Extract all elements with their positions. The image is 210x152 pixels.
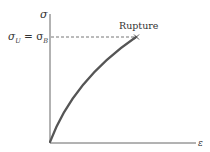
x-axis-label: ε xyxy=(198,138,203,148)
ultimate-stress-label: σU = σB xyxy=(8,30,48,45)
y-axis-label: σ xyxy=(40,8,48,21)
rupture-label: Rupture xyxy=(119,20,159,31)
stress-strain-diagram: σ ε Rupture σU = σB xyxy=(0,0,210,152)
stress-strain-curve xyxy=(50,37,136,142)
